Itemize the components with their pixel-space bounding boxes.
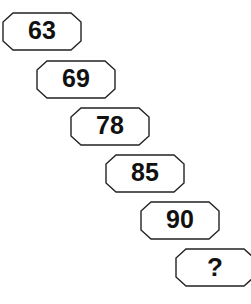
sequence-node-label: 85 <box>131 160 159 185</box>
sequence-node-2[interactable]: 69 <box>36 60 116 99</box>
sequence-node-5[interactable]: 90 <box>140 201 220 240</box>
sequence-node-label: 63 <box>28 18 56 43</box>
sequence-node-3[interactable]: 78 <box>70 107 150 146</box>
sequence-node-label: 69 <box>62 66 90 91</box>
sequence-node-6-unknown[interactable]: ? <box>175 248 251 287</box>
sequence-node-label: 90 <box>166 207 194 232</box>
sequence-node-4[interactable]: 85 <box>105 154 185 193</box>
sequence-node-label: 78 <box>96 113 124 138</box>
sequence-diagram: 63 69 78 85 90 ? <box>0 0 251 304</box>
sequence-node-1[interactable]: 63 <box>2 12 82 51</box>
sequence-node-label: ? <box>207 254 223 280</box>
